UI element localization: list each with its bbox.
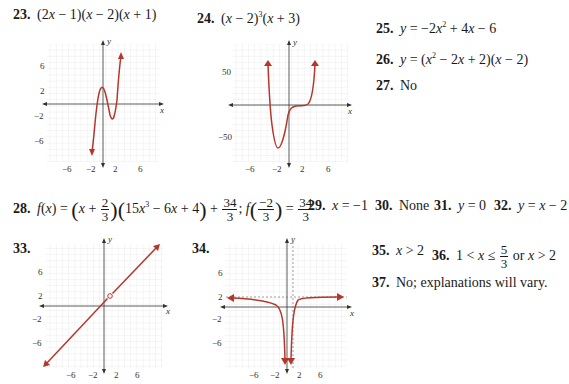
x-tick: 2	[113, 164, 118, 174]
x-tick: 6	[135, 370, 140, 380]
y-tick: 2	[38, 291, 43, 301]
x-axis-arrow-icon	[228, 103, 233, 107]
y-tick: 6	[218, 268, 223, 278]
x-tick: 6	[138, 164, 143, 174]
y-tick: −50	[218, 132, 233, 142]
y-tick: 2	[218, 292, 223, 302]
y-axis-arrow-icon	[102, 369, 106, 374]
y-axis-arrow-icon	[101, 40, 105, 45]
y-tick: −2	[32, 314, 42, 324]
graph-34: y x −6 −2 2 6 6 2 −2 −6	[212, 234, 354, 380]
y-tick: −2	[34, 111, 44, 121]
y-axis-arrow-icon	[101, 163, 105, 168]
y-axis-arrow-icon	[285, 369, 289, 374]
y-axis-label: y	[106, 36, 111, 46]
x-tick: 2	[114, 370, 119, 380]
x-tick: −6	[66, 370, 76, 380]
x-tick: −2	[272, 164, 282, 174]
y-axis-arrow-icon	[102, 238, 106, 243]
x-axis-arrow-icon	[42, 102, 47, 106]
y-tick: 2	[40, 86, 45, 96]
y-tick: 6	[38, 267, 43, 277]
graph-23: y x −6 −2 2 6 6 2 −2 −6	[34, 36, 164, 174]
x-tick: −2	[270, 370, 280, 380]
y-axis-arrow-icon	[287, 40, 291, 45]
y-tick: −6	[34, 136, 44, 146]
graphs-canvas: y x −6 −2 2 6 6 2 −2 −6 y x −6 −2 2 6 50…	[0, 0, 569, 384]
y-tick: 6	[40, 61, 45, 71]
grid	[233, 44, 348, 162]
x-axis-label: x	[347, 106, 352, 116]
x-tick: 6	[318, 370, 323, 380]
x-tick: −6	[245, 164, 255, 174]
y-tick: −2	[212, 314, 222, 324]
graph-33: y x −6 −2 2 6 6 2 −2 −6	[32, 234, 170, 380]
y-tick: −6	[32, 338, 42, 348]
x-tick: 6	[326, 164, 331, 174]
y-tick: 50	[222, 67, 232, 77]
x-tick: 2	[297, 370, 302, 380]
x-axis-arrow-icon	[39, 304, 44, 308]
x-tick: −2	[88, 370, 98, 380]
x-axis-arrow-icon	[220, 305, 225, 309]
y-axis-arrow-icon	[285, 238, 289, 243]
y-axis-label: y	[290, 234, 295, 244]
grid	[225, 244, 347, 368]
graph-24: y x −6 −2 2 6 50 −50	[218, 37, 352, 174]
x-tick: 2	[300, 164, 305, 174]
y-axis-label: y	[292, 37, 297, 47]
hole-marker	[108, 294, 113, 299]
y-axis-label: y	[107, 234, 112, 244]
y-tick: −6	[212, 338, 222, 348]
x-tick: −2	[86, 164, 96, 174]
x-axis-label: x	[165, 306, 170, 316]
x-axis-label: x	[349, 308, 354, 318]
x-tick: −6	[62, 164, 72, 174]
x-tick: −6	[249, 370, 259, 380]
x-axis-label: x	[159, 105, 164, 115]
y-axis-arrow-icon	[287, 163, 291, 168]
